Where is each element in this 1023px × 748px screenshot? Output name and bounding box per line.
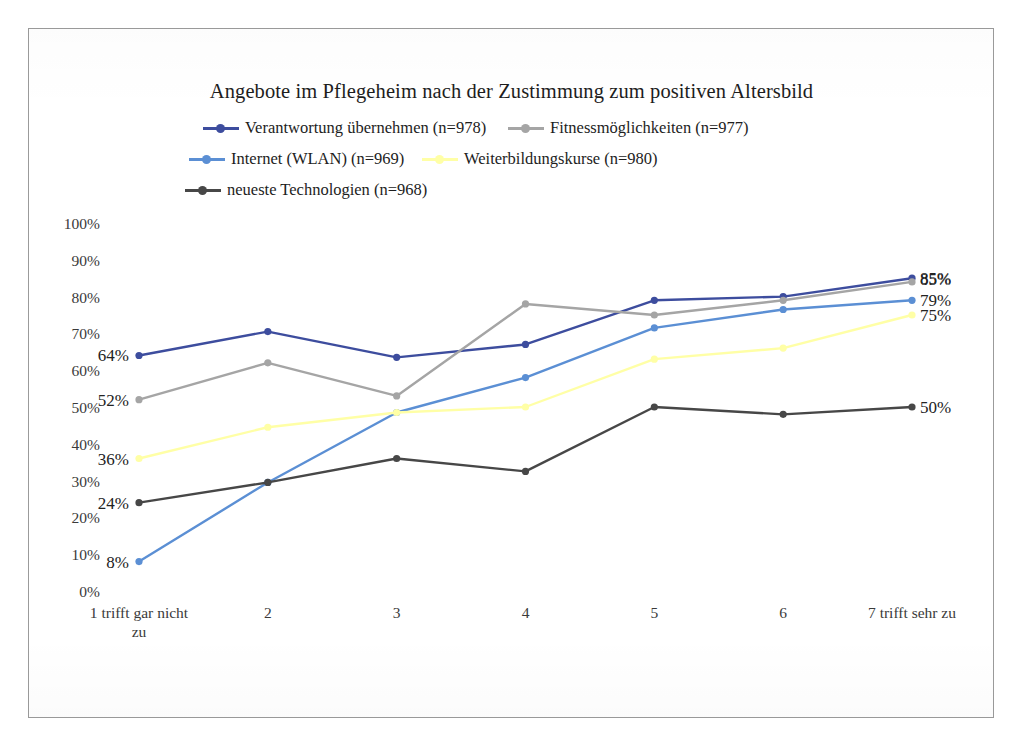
data-point [135,499,142,506]
data-point [393,354,400,361]
data-point [393,392,400,399]
data-value-label: 36% [69,451,129,468]
data-value-label: 8% [69,554,129,571]
data-point [522,374,529,381]
data-point [780,345,787,352]
data-point [264,359,271,366]
data-point [651,324,658,331]
data-value-label: 52% [69,392,129,409]
data-point [780,411,787,418]
data-point [908,311,915,318]
data-point [908,278,915,285]
data-point [135,558,142,565]
data-point [264,479,271,486]
data-point [780,306,787,313]
data-point [651,311,658,318]
data-value-label: 75% [920,307,951,324]
data-value-label: 50% [920,399,951,416]
data-point [780,297,787,304]
series-0 [135,275,915,361]
data-point [135,455,142,462]
data-point [522,468,529,475]
data-value-label: 24% [69,495,129,512]
data-point [522,403,529,410]
data-value-label: 85% [920,271,951,288]
data-point [651,297,658,304]
data-point [393,455,400,462]
data-point [651,356,658,363]
series-1 [135,278,915,403]
plot-area [0,0,1023,748]
data-point [135,396,142,403]
data-point [522,341,529,348]
series-line [139,315,912,459]
data-value-label: 64% [69,347,129,364]
data-point [651,403,658,410]
data-point [393,409,400,416]
data-point [908,403,915,410]
series-line [139,282,912,400]
data-point [522,300,529,307]
line-chart: Angebote im Pflegeheim nach der Zustimmu… [0,0,1023,748]
series-line [139,407,912,503]
data-point [264,424,271,431]
data-point [908,297,915,304]
data-point [264,328,271,335]
data-point [135,352,142,359]
